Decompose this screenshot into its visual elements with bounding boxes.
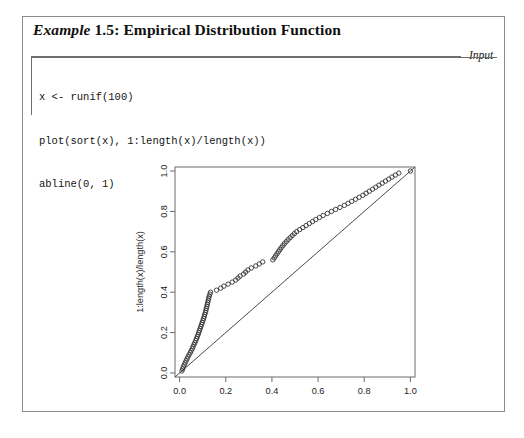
y-tick-label: 0.0 [159, 367, 169, 380]
data-point [377, 183, 381, 187]
x-tick-label: 1.0 [404, 386, 417, 396]
data-point [304, 223, 308, 227]
data-point [310, 219, 314, 223]
data-point [325, 211, 329, 215]
data-point [364, 191, 368, 195]
x-tick-label: 0.2 [219, 386, 232, 396]
example-title: Example 1.5: Empirical Distribution Func… [33, 21, 341, 39]
data-point [361, 193, 365, 197]
data-point [222, 284, 226, 288]
data-point [301, 225, 305, 229]
y-tick-label: 1.0 [159, 165, 169, 178]
data-point [370, 187, 374, 191]
data-point [307, 221, 311, 225]
example-keyword: Example [33, 21, 91, 38]
y-tick-label: 0.6 [159, 245, 169, 258]
plot-canvas: 0.00.20.40.60.81.00.00.20.40.60.81.0sort… [103, 139, 443, 407]
example-title-text: 1.5: Empirical Distribution Function [95, 21, 341, 38]
x-tick-label: 0.0 [173, 386, 186, 396]
y-axis-title: 1:length(x)/length(x) [135, 231, 145, 313]
data-point [214, 288, 218, 292]
reference-line [175, 167, 415, 377]
x-tick-label: 0.6 [312, 386, 325, 396]
x-tick-label: 0.8 [358, 386, 371, 396]
x-tick-label: 0.4 [266, 386, 279, 396]
example-frame: Example 1.5: Empirical Distribution Func… [22, 16, 505, 412]
data-point [321, 213, 325, 217]
data-point [260, 260, 264, 264]
data-point [338, 205, 342, 209]
data-point [218, 286, 222, 290]
data-point [386, 177, 390, 181]
data-point [329, 209, 333, 213]
data-point [226, 282, 230, 286]
r-plot: 0.00.20.40.60.81.00.00.20.40.60.81.0sort… [103, 139, 443, 407]
y-tick-label: 0.2 [159, 326, 169, 339]
code-line: x <- runif(100) [39, 90, 497, 105]
data-point [367, 189, 371, 193]
y-tick-label: 0.8 [159, 205, 169, 218]
data-point [397, 171, 401, 175]
data-point [374, 185, 378, 189]
data-point [249, 266, 253, 270]
data-point [383, 179, 387, 183]
data-point [333, 207, 337, 211]
y-tick-label: 0.4 [159, 286, 169, 299]
data-point [380, 181, 384, 185]
